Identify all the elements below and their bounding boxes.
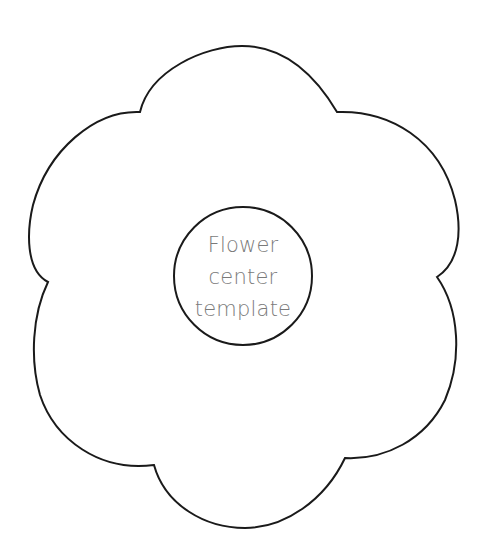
center-label-line-3: template (195, 297, 291, 321)
center-label-line-1: Flower (208, 233, 279, 257)
flower-template-canvas: Flower center template (0, 0, 489, 560)
center-label-line-2: center (209, 265, 278, 289)
